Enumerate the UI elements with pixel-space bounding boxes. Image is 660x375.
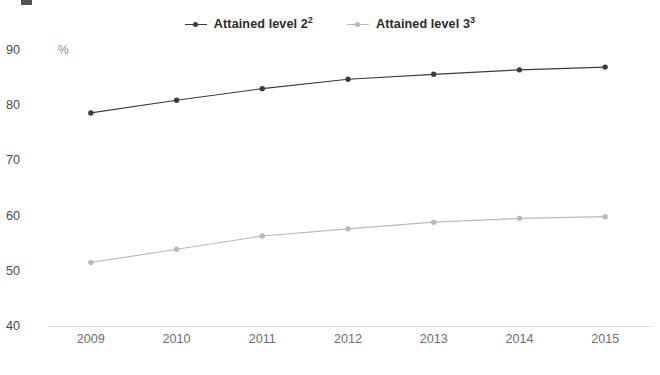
data-point: [431, 220, 436, 225]
legend-line-marker-icon: [347, 19, 369, 30]
chart-legend: Attained level 22 Attained level 33: [0, 17, 660, 31]
data-point: [345, 77, 350, 82]
data-point: [88, 260, 93, 265]
data-point: [88, 110, 93, 115]
y-axis-tick-label: 70: [6, 153, 42, 167]
legend-item-attained-level-2: Attained level 22: [185, 17, 313, 31]
legend-label-attained-level-3: Attained level 33: [376, 17, 475, 31]
x-axis-tick-label: 2010: [163, 332, 191, 346]
x-axis-tick-label: 2009: [77, 332, 105, 346]
data-point: [174, 247, 179, 252]
x-axis-tick-label: 2015: [591, 332, 619, 346]
data-point: [602, 214, 607, 219]
y-axis-tick-label: 40: [6, 319, 42, 333]
data-point: [517, 67, 522, 72]
data-point: [260, 233, 265, 238]
legend-label-text-1: Attained level 3: [376, 17, 470, 31]
legend-label-superscript-0: 2: [308, 15, 313, 25]
series-1: [88, 64, 608, 115]
series-line: [91, 67, 605, 113]
x-axis-tick-label: 2012: [334, 332, 362, 346]
series-line: [91, 217, 605, 263]
y-axis-tick-label: 90: [6, 43, 42, 57]
data-point: [431, 72, 436, 77]
x-axis-tick-label: 2014: [505, 332, 533, 346]
data-point: [260, 86, 265, 91]
legend-item-attained-level-3: Attained level 33: [347, 17, 475, 31]
data-point: [602, 64, 607, 69]
x-axis-tick-label: 2013: [420, 332, 448, 346]
data-point: [517, 216, 522, 221]
legend-label-text-0: Attained level 2: [214, 17, 308, 31]
x-axis-baseline: [48, 326, 652, 327]
y-axis-tick-label: 50: [6, 264, 42, 278]
x-axis-tick-label: 2011: [249, 332, 276, 346]
legend-line-marker-icon: [185, 19, 207, 30]
legend-label-superscript-1: 3: [470, 15, 475, 25]
y-axis-tick-label: 60: [6, 209, 42, 223]
cropped-text-artifact: [21, 0, 32, 5]
y-axis-tick-label: 80: [6, 98, 42, 112]
data-series-layer: [48, 50, 648, 326]
legend-label-attained-level-2: Attained level 22: [214, 17, 313, 31]
line-chart: Attained level 22 Attained level 33 % 40…: [0, 0, 660, 375]
x-axis-tick-labels: 2009201020112012201320142015: [48, 332, 648, 354]
y-axis-tick-labels: 405060708090: [6, 50, 42, 326]
data-point: [345, 226, 350, 231]
plot-area: [48, 50, 648, 326]
data-point: [174, 98, 179, 103]
series-2: [88, 214, 608, 265]
